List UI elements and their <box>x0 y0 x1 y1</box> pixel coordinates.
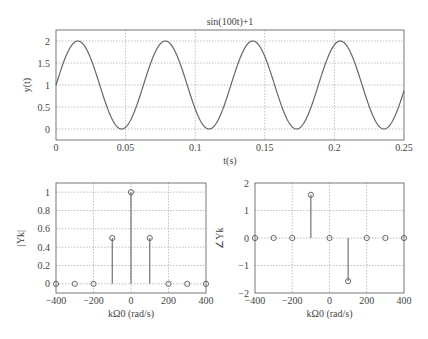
y-tick-label: 0.2 <box>38 260 51 271</box>
y-tick-label: 1 <box>244 205 249 216</box>
x-tick-label: −200 <box>282 295 303 306</box>
y-tick-label: 1.5 <box>38 58 51 69</box>
y-axis-label: ∠Yk <box>214 227 225 248</box>
y-tick-label: 0 <box>45 124 50 135</box>
y-tick-label: 0.4 <box>38 242 51 253</box>
x-tick-label: 200 <box>161 295 176 306</box>
x-tick-label: 0 <box>327 295 332 306</box>
phase-spectrum-plot: −400−2000200400−2−1012kΩ0 (rad/s)∠Yk <box>214 178 412 321</box>
x-tick-label: −200 <box>83 295 104 306</box>
y-tick-label: 1 <box>45 80 50 91</box>
y-axis-label: |Yk| <box>15 230 26 246</box>
magnitude-spectrum-plot: −400−200020040000.20.40.60.81kΩ0 (rad/s)… <box>15 183 214 320</box>
y-tick-label: 0 <box>244 233 249 244</box>
y-tick-label: 0.6 <box>38 223 51 234</box>
x-tick-label: 0.2 <box>328 142 341 153</box>
x-tick-label: 0.15 <box>256 142 274 153</box>
y-tick-label: −2 <box>238 288 249 299</box>
x-axis-label: t(s) <box>223 155 236 167</box>
y-tick-label: 0.8 <box>38 205 51 216</box>
x-tick-label: 0.05 <box>117 142 135 153</box>
y-tick-label: 0.5 <box>38 102 51 113</box>
x-tick-label: 0 <box>129 295 134 306</box>
y-tick-label: 1 <box>45 187 50 198</box>
y-tick-label: 0 <box>45 278 50 289</box>
chart-title: sin(100t)+1 <box>207 16 254 28</box>
x-tick-label: 0.1 <box>189 142 202 153</box>
x-axis-label: kΩ0 (rad/s) <box>108 308 154 320</box>
x-tick-label: 400 <box>199 295 214 306</box>
x-tick-label: 200 <box>359 295 374 306</box>
y-tick-label: 2 <box>45 36 50 47</box>
x-tick-label: −400 <box>46 295 67 306</box>
time-domain-plot: 00.050.10.150.20.2500.511.52t(s)y(t)sin(… <box>21 16 413 167</box>
x-tick-label: 0 <box>54 142 59 153</box>
y-axis-label: y(t) <box>21 78 33 92</box>
x-axis-label: kΩ0 (rad/s) <box>306 308 352 320</box>
y-tick-label: −1 <box>238 260 249 271</box>
figure: 00.050.10.150.20.2500.511.52t(s)y(t)sin(… <box>0 0 428 339</box>
y-tick-label: 2 <box>244 178 249 189</box>
x-tick-label: 400 <box>397 295 412 306</box>
x-tick-label: 0.25 <box>395 142 413 153</box>
